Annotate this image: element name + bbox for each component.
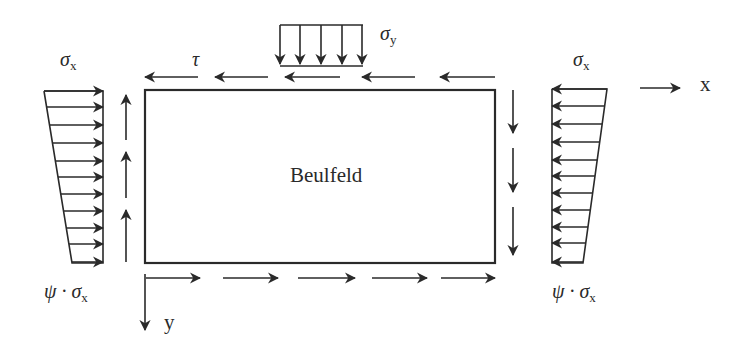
buckling-panel-diagram <box>0 0 750 354</box>
sigma-y-load-block <box>280 25 363 66</box>
label-psi-sigma-left: ψ · σx <box>44 280 88 303</box>
label-psi-sigma-right: ψ · σx <box>552 280 596 303</box>
label-tau: τ <box>192 48 199 71</box>
label-axis-y: y <box>164 310 175 335</box>
label-sigma-x-right: σx <box>573 48 589 71</box>
panel-label-beulfeld: Beulfeld <box>290 163 362 188</box>
label-axis-x: x <box>700 72 711 97</box>
label-sigma-x-left: σx <box>60 48 76 71</box>
label-sigma-y: σy <box>380 22 396 45</box>
left-sigma-x-distribution <box>44 91 103 263</box>
right-sigma-x-distribution <box>552 89 607 263</box>
